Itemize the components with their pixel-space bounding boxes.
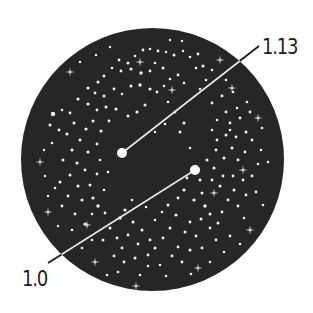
star-dot [137,243,140,246]
callout-label-1-13: 1.13 [262,36,297,58]
star-dot [260,149,263,152]
star-dot [164,123,167,126]
star-dot [105,106,108,109]
highlighted-star [190,165,200,175]
star-dot [181,261,184,264]
star-dot [74,213,77,216]
star-dot [120,70,123,73]
star-dot [127,234,130,237]
star-dot [147,265,150,268]
star-dot [67,195,70,198]
star-dot [51,142,54,145]
star-dot [84,169,87,172]
star-dot [237,159,240,162]
star-dot [225,111,228,114]
star-dot [149,70,152,73]
star-dot [96,173,99,176]
star-dot [139,71,142,74]
star-dot [118,59,121,62]
star-dot [132,221,135,224]
star-dot [182,121,185,124]
star-dot [209,227,212,230]
star-dot [225,134,228,137]
star-dot [54,187,57,190]
star-dot [211,102,214,105]
star-dot [69,112,72,115]
star-dot [229,235,232,238]
star-dot [44,175,46,177]
star-dot [159,264,162,267]
star-dot [267,161,270,164]
star-dot [257,163,260,166]
star-dot [76,97,79,100]
star-dot [111,67,114,70]
star-dot [201,192,204,195]
star-dot [65,132,68,135]
star-dot [71,229,74,232]
star-dot [169,78,172,81]
star-dot [69,174,72,177]
star-dot [58,129,61,132]
star-field-diagram: 1.13 1.0 [0,0,313,313]
star-dot [61,205,64,208]
star-dot [142,49,145,52]
star-dot [141,229,144,232]
star-dot [144,104,147,107]
star-dot [107,171,110,174]
star-dot [134,257,137,260]
star-dot [227,199,230,202]
star-dot [162,67,165,70]
star-dot [49,124,52,127]
star-dot [189,221,192,224]
star-dot [242,179,245,182]
star-dot [123,261,126,264]
star-dot [184,231,187,234]
star-dot [167,101,170,104]
star-dot [173,54,176,57]
star-dot [209,261,212,264]
star-dot [189,56,192,59]
star-dot [89,184,92,187]
star-dot [95,54,97,56]
star-dot [183,82,186,85]
star-dot [99,159,102,162]
star-dot [139,274,142,277]
star-dot [206,159,209,162]
star-dot [246,101,249,104]
star-dot [47,195,49,197]
star-dot [91,239,94,242]
star-dot [76,162,79,165]
star-dot [109,227,112,230]
star-dot [116,237,119,240]
star-dot [235,136,238,139]
star-dot [113,255,116,258]
star-dot [233,189,236,192]
star-dot [245,194,248,197]
star-dot [189,147,192,150]
star-dot [215,149,218,152]
star-dot [162,237,165,240]
star-dot [211,69,214,72]
star-dot [145,206,148,209]
star-dot [195,67,198,70]
star-dot [161,211,164,214]
star-dot [199,179,202,182]
star-dot [51,112,55,116]
star-dot [94,92,97,95]
star-dot [97,81,100,84]
star-dot [171,255,174,258]
star-dot [121,247,124,250]
star-dot [117,271,120,274]
star-dot [138,83,141,86]
star-dot [113,88,116,91]
star-dot [130,85,133,88]
callout-line-outer [240,46,259,61]
star-dot [134,55,137,58]
star-dot [249,111,252,114]
star-dot [239,243,242,246]
star-dot [149,239,152,242]
star-field-disc [21,28,284,291]
star-dot [96,143,99,146]
star-dot [179,131,182,134]
star-dot [127,115,130,118]
